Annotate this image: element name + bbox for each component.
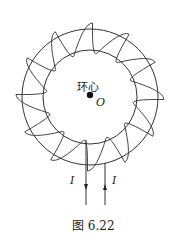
center-label: 环心 — [77, 78, 99, 94]
arrow-up-icon — [103, 184, 107, 190]
arrow-down-icon — [84, 184, 88, 190]
current-label-left: I — [70, 174, 74, 187]
toroid-diagram — [0, 0, 177, 245]
current-label-right: I — [112, 174, 116, 187]
center-point-label: O — [96, 96, 105, 109]
figure-caption: 图 6.22 — [72, 216, 115, 233]
